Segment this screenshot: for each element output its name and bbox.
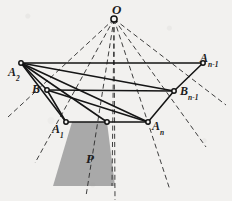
vertex-An xyxy=(146,120,150,124)
dashed-ray xyxy=(114,19,170,190)
label-region-p: P xyxy=(86,152,94,165)
vertex-M xyxy=(105,120,109,124)
vertex-markers xyxy=(19,16,205,124)
segment-An-Bn1 xyxy=(148,91,174,122)
segment-A2-A1 xyxy=(21,63,66,122)
dashed-ray xyxy=(114,19,115,200)
vertex-A2 xyxy=(19,61,23,65)
label-subscript: n-1 xyxy=(208,60,218,69)
dashed-axis-line xyxy=(112,19,114,186)
label-an: An xyxy=(152,120,164,135)
label-subscript: 2 xyxy=(16,74,20,83)
vertex-Bn1 xyxy=(172,89,176,93)
vertex-B xyxy=(45,88,49,92)
label-subscript: n-1 xyxy=(188,93,198,102)
label-b: B xyxy=(32,83,40,95)
dashed-rays-from-O xyxy=(8,19,226,200)
label-subscript: 1 xyxy=(60,131,64,140)
segment-B-Bn1 xyxy=(47,90,174,91)
label-a2: A2 xyxy=(8,66,20,81)
label-apex-O: O xyxy=(112,3,121,16)
label-subscript: n xyxy=(160,128,164,137)
label-a1: A1 xyxy=(52,123,64,138)
vertex-A1 xyxy=(64,120,68,124)
label-bn1: Bn-1 xyxy=(180,85,198,100)
label-an1: An-1 xyxy=(200,52,218,67)
